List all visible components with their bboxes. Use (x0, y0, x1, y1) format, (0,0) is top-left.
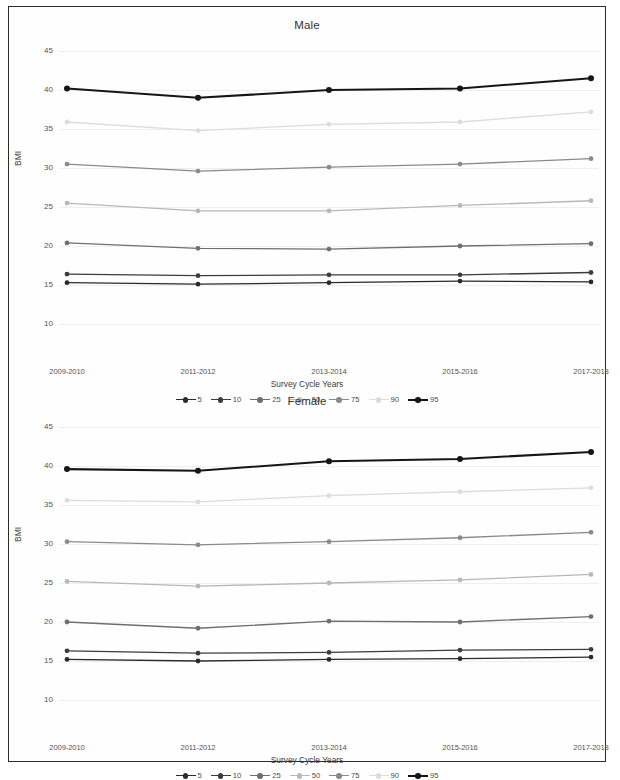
data-point (327, 539, 332, 544)
data-point (196, 626, 201, 631)
legend-item-p50[interactable]: 50 (290, 771, 320, 780)
legend-item-p5[interactable]: 5 (176, 771, 202, 780)
x-axis-tick-label: 2009-2010 (27, 743, 107, 752)
data-point (327, 209, 332, 214)
data-point (327, 247, 332, 252)
data-point (457, 85, 463, 91)
data-point (589, 241, 594, 246)
legend-swatch-icon (329, 772, 349, 779)
x-axis-tick-label: 2011-2012 (158, 367, 238, 376)
data-point (326, 458, 332, 464)
data-point (589, 572, 594, 577)
x-axis-tick-label: 2013-2014 (289, 367, 369, 376)
x-axis-tick-label: 2013-2014 (289, 743, 369, 752)
data-point (196, 246, 201, 251)
data-point (588, 449, 594, 455)
legend-item-p10[interactable]: 10 (211, 771, 241, 780)
series-canvas-female (9, 417, 605, 707)
data-point (65, 648, 70, 653)
legend-item-p25[interactable]: 25 (250, 771, 280, 780)
data-point (458, 648, 463, 653)
plot-area-female: BMI 4540353025201510 2009-20102011-20122… (9, 417, 605, 707)
data-point (589, 279, 594, 284)
data-point (458, 279, 463, 284)
data-point (196, 584, 201, 589)
series-line-p90 (65, 109, 594, 133)
data-point (64, 85, 70, 91)
data-point (589, 647, 594, 652)
x-axis-title-female: Survey Cycle Years (9, 755, 605, 765)
data-point (458, 620, 463, 625)
data-point (65, 240, 70, 245)
series-line-p10 (65, 270, 594, 278)
legend-label: 50 (312, 771, 320, 780)
data-point (327, 650, 332, 655)
legend-label: 10 (233, 771, 241, 780)
legend-label: 75 (351, 771, 359, 780)
x-axis-tick-label: 2011-2012 (158, 743, 238, 752)
data-point (327, 280, 332, 285)
data-point (327, 272, 332, 277)
series-line-p50 (65, 572, 594, 589)
data-point (65, 201, 70, 206)
data-point (327, 657, 332, 662)
legend-swatch-icon (290, 772, 310, 779)
legend-swatch-icon (250, 772, 270, 779)
data-point (65, 657, 70, 662)
data-point (196, 128, 201, 133)
data-point (196, 651, 201, 656)
legend-item-p95[interactable]: 95 (408, 771, 438, 780)
legend-label: 5 (198, 771, 202, 780)
data-point (458, 489, 463, 494)
x-axis-tick-label: 2017-2018 (551, 743, 620, 752)
chart-panel-female: Female BMI 4540353025201510 2009-2010201… (9, 385, 605, 761)
data-point (589, 156, 594, 161)
data-point (195, 468, 201, 474)
series-line-p95 (64, 449, 594, 474)
data-point (458, 162, 463, 167)
data-point (64, 466, 70, 472)
data-point (196, 169, 201, 174)
series-line-p25 (65, 240, 594, 251)
data-point (65, 272, 70, 277)
data-point (589, 109, 594, 114)
series-line-p75 (65, 156, 594, 173)
legend-item-p75[interactable]: 75 (329, 771, 359, 780)
data-point (589, 198, 594, 203)
data-point (589, 655, 594, 660)
data-point (196, 282, 201, 287)
series-line-p25 (65, 614, 594, 631)
chart-title-male: Male (9, 19, 605, 31)
data-point (327, 493, 332, 498)
data-point (589, 270, 594, 275)
data-point (65, 162, 70, 167)
legend-item-p90[interactable]: 90 (369, 771, 399, 780)
series-line-p5 (65, 655, 594, 664)
series-line-p10 (65, 647, 594, 656)
data-point (196, 209, 201, 214)
chart-panel-male: Male BMI 4540353025201510 2009-20102011-… (9, 9, 605, 385)
legend-label: 95 (430, 771, 438, 780)
chart-title-female: Female (9, 395, 605, 407)
data-point (458, 577, 463, 582)
series-line-p90 (65, 485, 594, 504)
x-axis-tick-label: 2015-2016 (420, 367, 500, 376)
legend-label: 25 (272, 771, 280, 780)
legend-female: 5102550759095 (9, 771, 605, 780)
data-point (326, 87, 332, 93)
legend-swatch-icon (369, 772, 389, 779)
data-point (196, 499, 201, 504)
data-point (458, 535, 463, 540)
legend-swatch-icon (211, 772, 231, 779)
data-point (327, 581, 332, 586)
data-point (65, 498, 70, 503)
legend-swatch-icon (408, 772, 428, 779)
data-point (327, 619, 332, 624)
data-point (65, 280, 70, 285)
data-point (458, 272, 463, 277)
data-point (65, 579, 70, 584)
series-line-p5 (65, 279, 594, 287)
data-point (589, 614, 594, 619)
data-point (195, 95, 201, 101)
data-point (458, 120, 463, 125)
